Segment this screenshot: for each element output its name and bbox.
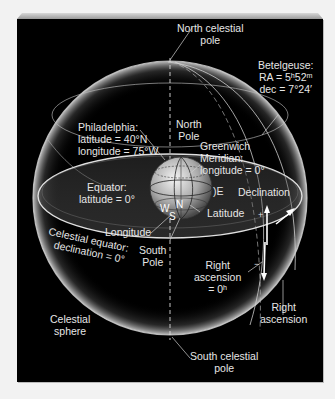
label-right-ascension: Right ascension [260,301,307,325]
label-latitude: Latitude [207,207,244,219]
label-minus: − [254,258,259,270]
globe-marker-north: N [176,199,183,211]
label-longitude: Longitude [105,226,151,238]
label-betelgeuse: Betelgeuse: RA = 5ʰ52ᵐ dec = 7°24′ [258,59,313,95]
label-celestial-sphere: Celestial sphere [50,313,90,337]
label-north-celestial-pole: North celestial pole [177,22,244,46]
label-east: )E [213,185,224,197]
label-greenwich-meridian: Greenwich Meridian: longitude = 0° [200,140,265,176]
label-declination: Declination [238,186,290,198]
label-south-pole: South Pole [139,244,166,268]
label-north-pole: North Pole [176,118,202,142]
globe-marker-south: S [169,211,176,223]
label-south-celestial-pole: South celestial pole [190,350,258,374]
label-right-ascension-zero: Right ascension = 0ʰ [194,259,241,295]
label-philadelphia: Philadelphia: latitude = 40°N longitude … [78,121,158,157]
label-plus: + [258,209,263,221]
label-equator: Equator: latitude = 0° [79,181,135,205]
